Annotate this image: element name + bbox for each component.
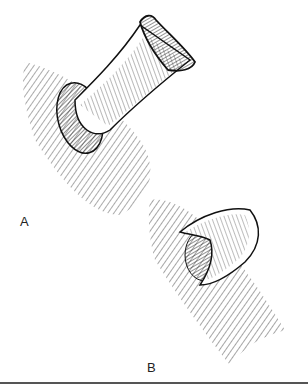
panel-label-b: B	[147, 360, 156, 375]
illustration	[0, 0, 308, 388]
panel-a-drawing	[23, 16, 195, 215]
bottom-divider	[0, 382, 308, 384]
panel-b-drawing	[149, 200, 285, 365]
figure: A B	[0, 0, 308, 388]
panel-label-a: A	[20, 214, 29, 229]
